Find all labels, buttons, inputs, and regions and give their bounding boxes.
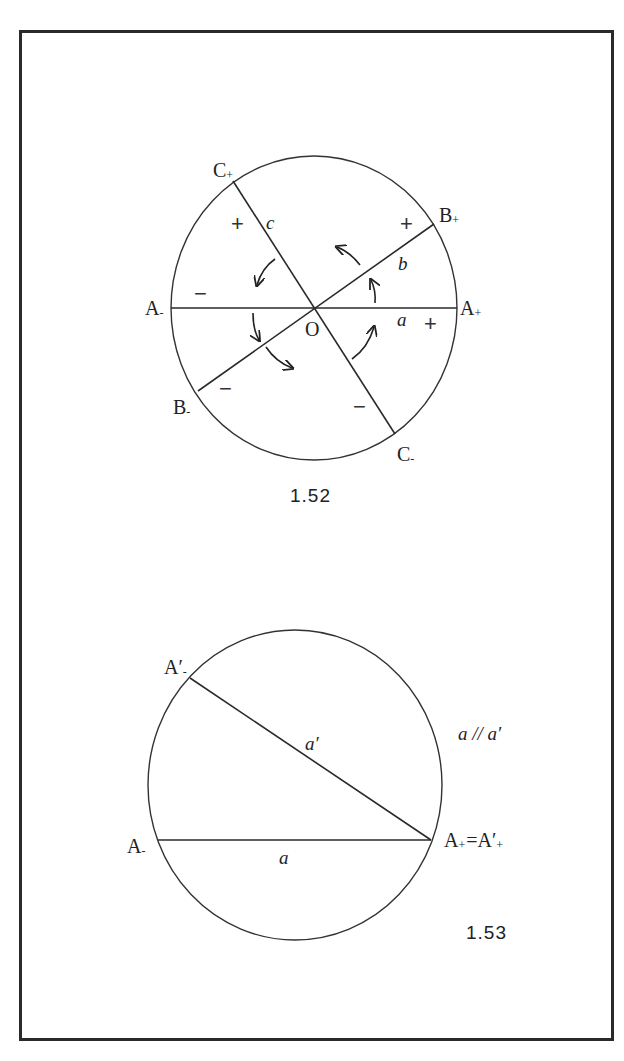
label-b-plus: B+: [439, 204, 459, 227]
label-line-b: b: [398, 253, 408, 274]
caption-1-53: 1.53: [466, 922, 507, 943]
caption-1-52: 1.52: [290, 485, 331, 506]
label-a-minus: A-: [127, 835, 145, 858]
arrow-icon: [371, 280, 375, 303]
plus-sign: +: [424, 311, 437, 336]
figure-canvas: A- A+ B+ B- C+ C- O c b a + + + − − − 1.…: [0, 0, 624, 1061]
label-line-a: a: [279, 847, 289, 868]
label-a-prime-minus: A′-: [164, 656, 187, 679]
minus-sign: −: [353, 394, 366, 419]
label-line-a: a: [397, 309, 407, 330]
arrow-icon: [352, 327, 374, 359]
minus-sign: −: [194, 281, 207, 306]
figure-1-52: A- A+ B+ B- C+ C- O c b a + + + − − − 1.…: [145, 156, 481, 506]
arrow-icon: [337, 247, 360, 265]
plus-sign: +: [400, 211, 413, 236]
label-a-plus: A+: [460, 297, 481, 320]
label-a-plus-equals-a-prime-plus: A+=A′+: [444, 829, 503, 852]
minus-sign: −: [219, 376, 232, 401]
parallel-relation: a // a′: [458, 723, 502, 744]
label-b-minus: B-: [173, 396, 190, 419]
plus-sign: +: [231, 211, 244, 236]
label-c-plus: C+: [213, 159, 233, 182]
label-c-minus: C-: [397, 443, 414, 466]
arrow-icon: [257, 259, 275, 285]
circle-1-53: [148, 630, 442, 940]
label-a-minus: A-: [145, 297, 163, 320]
label-origin: O: [305, 318, 319, 340]
line-a-prime: [190, 678, 431, 840]
figure-1-53: A- A′- A+=A′+ a a′ a // a′ 1.53: [127, 630, 507, 943]
label-line-c: c: [266, 212, 275, 233]
arrow-icon: [266, 347, 292, 368]
arrow-icon: [253, 313, 259, 340]
label-line-a-prime: a′: [305, 733, 320, 754]
